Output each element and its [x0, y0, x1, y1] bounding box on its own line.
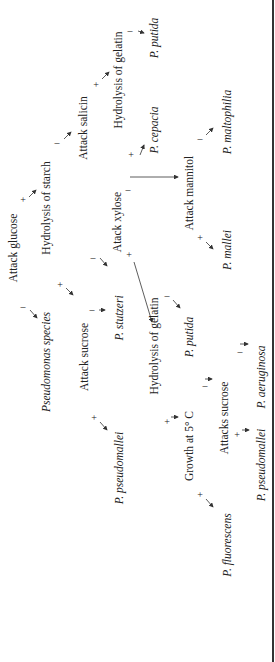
sign-plus: + — [20, 195, 26, 205]
sign-minus: – — [126, 185, 131, 195]
sign-minus: – — [238, 347, 243, 357]
sign-plus: + — [164, 417, 170, 427]
sign-minus: – — [90, 305, 95, 315]
node-pseudomonas-species: Pseudomonas species — [41, 312, 53, 412]
node-hydrolysis-of-gelatin-mid: Hydrolysis of gelatin — [149, 297, 161, 394]
sign-plus: + — [91, 413, 97, 423]
species-p-aeruginosa: P. aeruginosa — [256, 345, 268, 408]
species-p-mallei: P. mallei — [222, 230, 234, 270]
node-attacks-sucrose: Attacks sucrose — [219, 382, 231, 455]
node-hydrolysis-of-starch: Hydrolysis of starch — [41, 161, 53, 254]
sign-minus: – — [203, 381, 208, 391]
species-p-pseudomallei-2: P. pseudomallei — [256, 429, 268, 502]
node-attack-xylose: Atack xylose — [112, 192, 124, 252]
species-p-stutzeri: P. stutzeri — [114, 295, 126, 340]
node-hydrolysis-of-gelatin-top: Hydrolysis of gelatin — [113, 31, 125, 128]
sign-plus: + — [93, 80, 99, 90]
sign-minus: – — [21, 302, 26, 312]
sign-plus: + — [57, 280, 63, 290]
node-attack-salicin: Attack salicin — [78, 96, 90, 160]
sign-plus: + — [128, 150, 134, 160]
node-growth-at-5c: Growth at 5° C — [184, 411, 196, 481]
species-p-maltophilia: P. maltophilia — [222, 90, 234, 154]
sign-minus: – — [55, 138, 60, 148]
species-p-fluorescens: P. fluorescens — [222, 513, 234, 576]
sign-minus: – — [128, 26, 133, 36]
sign-plus: + — [234, 430, 240, 440]
node-attack-glucose: Attack glucose — [8, 214, 20, 283]
sign-plus: + — [126, 250, 132, 260]
sign-minus: – — [165, 291, 170, 301]
species-p-putida-top: P. putida — [149, 18, 161, 59]
species-p-cepacia: P. cepacia — [149, 106, 161, 153]
species-p-putida-mid: P. putida — [184, 317, 196, 358]
species-p-pseudomallei-1: P. pseudomallei — [114, 432, 126, 505]
sign-minus: – — [91, 253, 96, 263]
node-attack-mannitol: Attack mannitol — [184, 156, 196, 230]
node-attack-sucrose: Attack sucrose — [79, 323, 91, 391]
sign-minus: – — [198, 134, 203, 144]
sign-plus: + — [197, 490, 203, 500]
sign-plus: + — [197, 233, 203, 243]
